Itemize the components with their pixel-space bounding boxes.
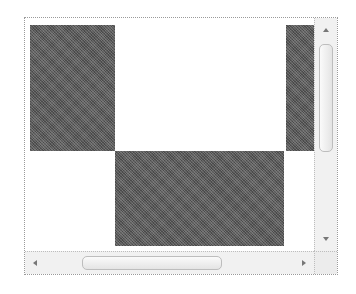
arrow-right-icon[interactable] (302, 260, 306, 266)
top-right-dark-strip (286, 25, 314, 151)
arrow-down-icon[interactable] (323, 237, 329, 241)
arrow-up-icon[interactable] (323, 28, 329, 32)
vertical-scrollbar[interactable] (314, 18, 337, 251)
horizontal-scroll-thumb[interactable] (82, 256, 222, 270)
arrow-left-icon[interactable] (33, 260, 37, 266)
horizontal-scrollbar[interactable] (25, 251, 314, 274)
scroll-viewport[interactable] (25, 18, 314, 251)
scroll-view (24, 17, 338, 275)
bottom-center-dark-block (115, 151, 284, 246)
top-left-dark-block (30, 25, 115, 151)
scrollbar-corner (314, 251, 337, 274)
vertical-scroll-thumb[interactable] (319, 44, 333, 152)
